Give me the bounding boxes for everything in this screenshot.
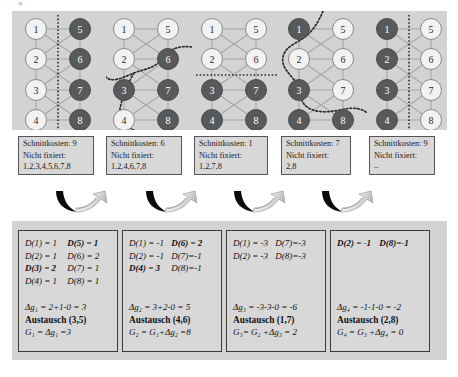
- graph-node-label: 5: [341, 24, 346, 35]
- d-value-right: D(6) = 2: [171, 237, 217, 250]
- graph-node-label: 1: [385, 24, 390, 35]
- schnittkosten-label: Schnittkosten: 6: [111, 138, 178, 150]
- graph-node-2[interactable]: 2: [202, 49, 223, 70]
- austausch-line: Austausch (4,6): [129, 314, 217, 327]
- step-box-3: D(1) = -3D(7)=-3D(2) = -3D(8)=-3 Δg₃ = -…: [226, 230, 326, 352]
- d-value-left: D(4) = 1: [25, 275, 67, 288]
- nicht-fixiert-label: Nicht fixiert:: [286, 150, 347, 162]
- graph-node-1[interactable]: 1: [26, 19, 47, 40]
- d-value-right: D(6) = 2: [67, 250, 113, 263]
- graph-node-2[interactable]: 2: [377, 49, 398, 70]
- graph-node-6[interactable]: 6: [333, 49, 354, 70]
- graph-node-1[interactable]: 1: [202, 19, 223, 40]
- arrow-icon-1: [55, 185, 117, 215]
- graph-node-label: 6: [429, 54, 434, 65]
- step-box-1: D(1) = 1D(5) = 1D(2) = 1D(6) = 2D(3) = 2…: [18, 230, 118, 352]
- graph-node-3[interactable]: 3: [289, 80, 310, 101]
- graph-node-1[interactable]: 1: [289, 19, 310, 40]
- d-value-left: D(2) = -1: [129, 250, 171, 263]
- graph-node-7[interactable]: 7: [70, 80, 91, 101]
- arrow-tail-shape: [56, 191, 77, 212]
- graph-node-3[interactable]: 3: [26, 80, 47, 101]
- graph-node-7[interactable]: 7: [333, 80, 354, 101]
- step-summary: Δg₂ = 3+2-0 = 5Austausch (4,6)G₂ = G₁+Δg…: [129, 301, 217, 339]
- graph-node-4[interactable]: 4: [26, 110, 47, 131]
- graph-node-label: 3: [297, 85, 302, 96]
- info-box-1: Schnittkosten: 6Nicht fixiert:1,2,4,6,7,…: [106, 136, 182, 175]
- graph-node-3[interactable]: 3: [114, 80, 135, 101]
- graph-node-6[interactable]: 6: [70, 49, 91, 70]
- graph-node-1[interactable]: 1: [377, 19, 398, 40]
- graph-node-5[interactable]: 5: [158, 19, 179, 40]
- cumulative-gain-line: G₂ = G₁+Δg₂ =8: [129, 326, 217, 339]
- delta-gain-line: Δg₄ = -1-1-0 = -2: [337, 301, 425, 314]
- graph-node-8[interactable]: 8: [158, 110, 179, 131]
- graph-node-2[interactable]: 2: [26, 49, 47, 70]
- graph-node-3[interactable]: 3: [377, 80, 398, 101]
- graph-node-label: 8: [166, 115, 171, 126]
- graph-node-label: 4: [122, 115, 127, 126]
- nicht-fixiert-values: 1,2,7,8: [199, 161, 264, 173]
- graph-node-5[interactable]: 5: [246, 19, 267, 40]
- graph-node-4[interactable]: 4: [114, 110, 135, 131]
- graph-node-5[interactable]: 5: [70, 19, 91, 40]
- graph-node-4[interactable]: 4: [289, 110, 310, 131]
- graph-node-7[interactable]: 7: [158, 80, 179, 101]
- graph-node-5[interactable]: 5: [421, 19, 442, 40]
- graph-node-label: 4: [385, 115, 390, 126]
- graph-node-label: 1: [210, 24, 215, 35]
- graph-node-label: 5: [254, 24, 259, 35]
- graph-step-0: 12345678: [18, 11, 104, 130]
- d-value-left: D(1) = -3: [233, 237, 275, 250]
- graph-node-8[interactable]: 8: [246, 110, 267, 131]
- graph-node-6[interactable]: 6: [246, 49, 267, 70]
- d-value-right: D(8)=-1: [379, 237, 425, 250]
- graph-node-5[interactable]: 5: [333, 19, 354, 40]
- graph-node-label: 8: [429, 115, 434, 126]
- d-value-left: D(2) = 1: [25, 250, 67, 263]
- graph-node-label: 8: [341, 115, 346, 126]
- d-values-group: D(1) = -3D(7)=-3D(2) = -3D(8)=-3: [233, 237, 321, 295]
- arrow-tail-shape: [234, 191, 255, 212]
- nicht-fixiert-values: 1,2,4,6,7,8: [111, 161, 178, 173]
- graph-node-3[interactable]: 3: [202, 80, 223, 101]
- arrow-icon-3: [233, 185, 295, 215]
- graph-node-label: 2: [297, 54, 302, 65]
- graph-node-2[interactable]: 2: [289, 49, 310, 70]
- graph-node-7[interactable]: 7: [246, 80, 267, 101]
- d-value-row: D(1) = -1D(6) = 2: [129, 237, 217, 250]
- d-value-spacer: [337, 262, 425, 275]
- graph-node-label: 3: [34, 85, 39, 96]
- graph-node-label: 3: [122, 85, 127, 96]
- info-box-2: Schnittkosten: 1Nicht fixiert:1,2,7,8: [194, 136, 268, 175]
- cumulative-gain-line: G₃= G₂ +Δg₃ = 2: [233, 326, 321, 339]
- graph-node-4[interactable]: 4: [202, 110, 223, 131]
- graph-node-6[interactable]: 6: [421, 49, 442, 70]
- schnittkosten-label: Schnittkosten: 1: [199, 138, 264, 150]
- schnittkosten-label: Schnittkosten: 9: [23, 138, 90, 150]
- graph-node-label: 2: [385, 54, 390, 65]
- step-box-2: D(1) = -1D(6) = 2D(2) = -1D(7)=-1D(4) = …: [122, 230, 222, 352]
- graph-node-6[interactable]: 6: [158, 49, 179, 70]
- graph-step-4: 12345678: [369, 11, 455, 130]
- step-box-4: D(2) = -1D(8)=-1 Δg₄ = -1-1-0 = -2Austau…: [330, 230, 430, 352]
- graph-node-label: 6: [341, 54, 346, 65]
- graph-node-8[interactable]: 8: [421, 110, 442, 131]
- graph-node-8[interactable]: 8: [333, 110, 354, 131]
- info-box-3: Schnittkosten: 7Nicht fixiert:2,8: [281, 136, 351, 175]
- graph-node-4[interactable]: 4: [377, 110, 398, 131]
- d-value-spacer: [233, 275, 321, 288]
- d-value-row: D(2) = -1D(7)=-1: [129, 250, 217, 263]
- graph-node-7[interactable]: 7: [421, 80, 442, 101]
- graph-node-label: 6: [78, 54, 83, 65]
- d-value-left: D(1) = 1: [25, 237, 67, 250]
- graph-node-8[interactable]: 8: [70, 110, 91, 131]
- d-value-row: D(4) = 3D(8)=-1: [129, 262, 217, 275]
- graph-node-label: 5: [166, 24, 171, 35]
- faint-header-text: · · ■· ·: [6, 0, 126, 10]
- graph-node-label: 2: [122, 54, 127, 65]
- arrow-tail-shape: [322, 191, 343, 212]
- graph-node-1[interactable]: 1: [114, 19, 135, 40]
- graph-node-2[interactable]: 2: [114, 49, 135, 70]
- graph-node-label: 4: [34, 115, 39, 126]
